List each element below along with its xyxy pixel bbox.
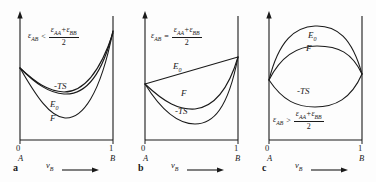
formula-denominator: 2 [185,38,189,47]
x-axis-variable-subscript: B [50,166,54,172]
x-axis-variable-label: νB [171,160,178,172]
curve-e0 [145,57,238,84]
curve-label-e0-subscript: 0 [179,67,182,73]
x-axis-arrowhead [341,167,348,172]
endpoint-label-a: A [267,153,272,163]
formula-numerator: εAA+εBB [294,110,324,121]
formula-condition-b: εAB = εAA+εBB 2 [151,26,202,47]
curve-label-f: F [306,43,312,53]
formula-lhs-subscript: AB [154,36,161,42]
curve-label-e0: E0 [173,61,182,73]
formula-lhs-subscript: AB [31,36,38,42]
figure-container: εAB < εAA+εBB 2 -TS E0 F 0 1 A B νB a [0,0,376,182]
x-tick-label-one: 1 [109,143,113,153]
curve-label-e0: E0 [308,30,317,42]
panel-b: εAB = εAA+εBB 2 E0 F -TS 0 1 A B νB b [127,0,252,182]
panel-c: εAB > εAA+εBB 2 E0 F -TS 0 1 A B νB c [251,0,376,182]
formula-fraction: εAA+εBB 2 [294,110,324,131]
numerator-left-subscript: AA [177,30,184,36]
formula-condition-c: εAB > εAA+εBB 2 [273,110,324,131]
y-axis-arrowhead [266,11,271,19]
numerator-right-subscript: BB [193,30,200,36]
formula-denominator: 2 [307,122,311,131]
endpoint-label-b: B [359,153,364,163]
formula-fraction: εAA+εBB 2 [172,26,202,47]
curve-label-f: F [50,113,56,123]
curve-f [269,46,362,80]
panel-tag-b: b [138,162,144,173]
x-tick-label-zero: 0 [265,143,269,153]
x-axis-variable-label: νB [46,160,53,172]
curve-label-minus-ts: -TS [175,106,188,116]
numerator-right-subscript: BB [315,114,322,120]
x-axis-arrowhead [217,167,224,172]
x-axis-variable-subscript: B [299,166,303,172]
endpoint-label-a: A [18,153,23,163]
formula-relation: = [164,32,169,41]
curve-minus-ts [145,57,238,124]
formula-fraction: εAA+εBB 2 [49,26,79,47]
x-tick-label-zero: 0 [141,143,145,153]
x-tick-label-one: 1 [234,143,238,153]
formula-numerator: εAA+εBB [172,26,202,37]
x-tick-label-zero: 0 [16,143,20,153]
formula-relation: < [41,32,46,41]
panel-a: εAB < εAA+εBB 2 -TS E0 F 0 1 A B νB a [2,0,127,182]
numerator-left-subscript: AA [54,30,61,36]
endpoint-label-b: B [110,153,115,163]
x-axis-arrowhead [92,167,99,172]
formula-lhs-subscript: AB [276,120,283,126]
x-tick-label-one: 1 [358,143,362,153]
panel-tag-a: a [13,162,18,173]
curve-label-e0-subscript: 0 [56,105,59,111]
y-axis-arrowhead [142,11,147,19]
curve-label-minus-ts: -TS [54,81,67,91]
numerator-left-subscript: AA [299,114,306,120]
panel-tag-c: c [262,162,266,173]
curve-label-f: F [181,88,187,98]
curve-label-minus-ts: -TS [297,86,310,96]
formula-condition-a: εAB < εAA+εBB 2 [28,26,79,47]
formula-numerator: εAA+εBB [49,26,79,37]
curve-label-e0: E0 [50,99,59,111]
endpoint-label-b: B [235,153,240,163]
numerator-right-subscript: BB [70,30,77,36]
curve-label-e0-subscript: 0 [314,36,317,42]
formula-denominator: 2 [62,38,66,47]
y-axis-arrowhead [17,11,22,19]
curve-minus-ts [269,74,362,107]
x-axis-variable-label: νB [295,160,302,172]
formula-relation: > [286,116,291,125]
x-axis-variable-subscript: B [175,166,179,172]
